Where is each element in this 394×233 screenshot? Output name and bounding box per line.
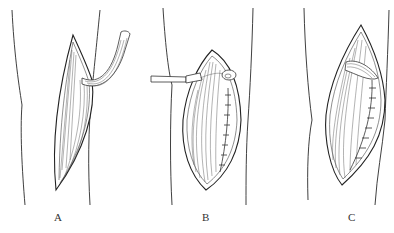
panel-a-drawing <box>12 10 130 205</box>
panel-b-limb-left-outline <box>163 8 172 205</box>
panel-a-label: A <box>54 211 62 223</box>
panel-a-limb-left-outline <box>12 10 25 205</box>
panel-c-label: C <box>348 211 355 223</box>
panel-c-limb-left-outline <box>304 8 312 200</box>
panel-b-limb-right-outline <box>246 8 253 205</box>
forceps-icon <box>151 73 202 83</box>
panel-b-drawing <box>151 8 253 205</box>
panel-b-label: B <box>202 211 209 223</box>
figure-drawing <box>0 0 394 233</box>
panel-c-drawing <box>304 8 389 205</box>
